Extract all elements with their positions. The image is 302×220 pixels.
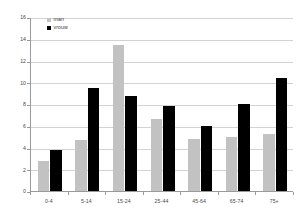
chart-legend: manvrouw (47, 16, 68, 32)
bar-man-45-64 (188, 139, 200, 191)
y-axis-tick-label: 10 (0, 81, 26, 86)
y-axis-tick-label: 6 (0, 124, 26, 129)
x-axis-tick-label: 25-44 (143, 199, 181, 204)
bar-group (38, 18, 62, 191)
x-axis-tick-mark (180, 192, 181, 195)
x-axis-tick-mark (105, 192, 106, 195)
bar-group (188, 18, 212, 191)
bar-man-25-44 (151, 119, 163, 191)
bar-man-5-14 (75, 140, 87, 191)
bar-man-15-24 (113, 45, 125, 191)
legend-label: vrouw (54, 25, 68, 30)
bar-vrouw-25-44 (163, 106, 175, 191)
bar-vrouw-0-4 (50, 150, 62, 191)
x-axis-tick-mark (218, 192, 219, 195)
bar-vrouw-75+ (276, 78, 288, 191)
y-axis-tick-label: 12 (0, 59, 26, 64)
y-axis-tick-label: 16 (0, 15, 26, 20)
y-axis-tick-label: 0 (0, 189, 26, 194)
bar-group (151, 18, 175, 191)
legend-swatch-icon (47, 18, 51, 22)
y-axis-tick-label: 2 (0, 168, 26, 173)
bar-series-container (31, 18, 293, 191)
x-axis-tick-mark (68, 192, 69, 195)
x-axis-tick-mark (293, 192, 294, 195)
x-axis-tick-mark (143, 192, 144, 195)
bar-man-75+ (263, 134, 275, 191)
bar-man-0-4 (38, 161, 50, 191)
bar-group (75, 18, 99, 191)
bar-group (263, 18, 287, 191)
plot-area (30, 18, 293, 192)
bar-group (226, 18, 250, 191)
bar-vrouw-5-14 (88, 88, 100, 191)
x-axis-tick-label: 75+ (255, 199, 293, 204)
legend-swatch-icon (47, 26, 51, 30)
bar-group (113, 18, 137, 191)
x-axis-tick-mark (30, 192, 31, 195)
bar-vrouw-45-64 (201, 126, 213, 191)
bar-chart: 0246810121416 0-45-1415-2425-4445-6465-7… (0, 0, 302, 220)
x-axis-tick-label: 65-74 (218, 199, 256, 204)
y-axis-tick-label: 4 (0, 146, 26, 151)
x-axis-tick-label: 15-24 (105, 199, 143, 204)
y-axis-tick-label: 14 (0, 37, 26, 42)
x-axis-tick-mark (255, 192, 256, 195)
x-axis-tick-label: 5-14 (68, 199, 106, 204)
x-axis-tick-label: 45-64 (180, 199, 218, 204)
legend-item-man: man (47, 16, 68, 23)
bar-vrouw-15-24 (125, 96, 137, 191)
bar-vrouw-65-74 (238, 104, 250, 191)
x-axis-tick-label: 0-4 (30, 199, 68, 204)
bar-man-65-74 (226, 137, 238, 191)
y-axis-tick-label: 8 (0, 102, 26, 107)
legend-label: man (54, 17, 64, 22)
legend-item-vrouw: vrouw (47, 24, 68, 31)
